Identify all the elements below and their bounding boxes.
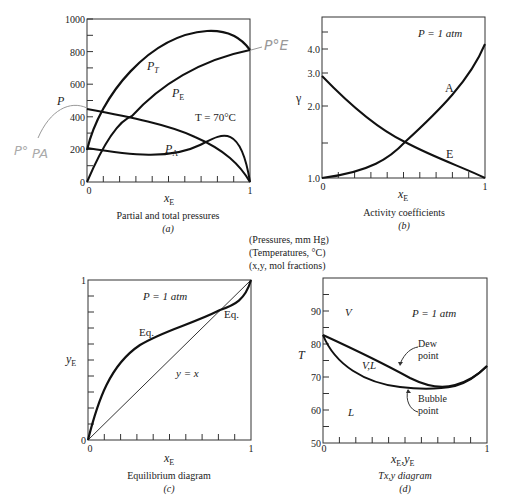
units-note-line: (Temperatures, °C) xyxy=(249,247,326,259)
ytick-label: 60 xyxy=(311,405,321,416)
xtick-label: 1 xyxy=(483,181,488,192)
label-bubble-point: point xyxy=(418,405,439,416)
curve-gamma-a xyxy=(322,44,485,178)
ytick-label: 80 xyxy=(311,339,321,350)
x-axis-label: xE xyxy=(163,191,174,207)
caption-sub: (b) xyxy=(398,220,410,232)
units-note: (Pressures, mm Hg) (Temperatures, °C) (x… xyxy=(249,234,329,272)
xtick-label: 0 xyxy=(321,181,326,192)
ytick-label: 0 xyxy=(81,435,86,446)
curve-bubble-point xyxy=(323,335,487,389)
ytick-label: 1000 xyxy=(65,14,85,25)
chart-d-ytick-labels: 50 60 70 80 90 xyxy=(311,306,321,449)
region-vl: V,L xyxy=(362,359,376,371)
label-eq-2: Eq. xyxy=(224,308,239,320)
chart-d-xticks xyxy=(339,437,470,443)
dew-arrow xyxy=(400,347,418,364)
chart-a-frame xyxy=(87,19,250,182)
label-dew-point: point xyxy=(418,350,439,361)
label-dew: Dew xyxy=(418,338,438,349)
xtick-label: 1 xyxy=(249,443,254,454)
region-v: V xyxy=(345,306,353,318)
chart-a-xticks xyxy=(103,176,233,182)
condition-label: P = 1 atm xyxy=(411,307,456,319)
ytick-label: 1 xyxy=(81,275,86,286)
curve-pt xyxy=(87,31,250,150)
label-pt: PT xyxy=(146,59,159,75)
bubble-arrowhead-icon xyxy=(406,389,411,393)
xtick-label: 0 xyxy=(322,443,327,454)
chart-a-ytick-labels: 0 200 400 600 800 1000 xyxy=(65,14,85,188)
chart-d-frame xyxy=(323,278,487,443)
diagonal-line xyxy=(88,280,251,440)
ytick-label: 2.0 xyxy=(308,101,321,112)
condition-label: P = 1 atm xyxy=(142,290,187,302)
caption: Partial and total pressures xyxy=(116,210,219,221)
chart-b-yticks xyxy=(322,32,328,143)
ytick-label: 800 xyxy=(70,47,85,58)
x-axis-label: xE xyxy=(163,451,174,467)
xtick-label: 0 xyxy=(88,443,93,454)
handwritten-pe: P°E xyxy=(264,37,288,53)
chart-c-xticks xyxy=(104,434,234,440)
chart-d-yticks xyxy=(323,295,329,427)
ytick-label: 1.0 xyxy=(308,173,321,184)
region-l: L xyxy=(347,406,354,418)
label-a: A xyxy=(445,81,454,95)
ytick-label: 400 xyxy=(70,112,85,123)
ytick-label: 600 xyxy=(70,79,85,90)
label-eq-1: Eq. xyxy=(139,326,154,338)
units-note-line: (Pressures, mm Hg) xyxy=(249,234,329,246)
xtick-label: 1 xyxy=(248,185,253,196)
handwritten-pa: PA xyxy=(32,146,48,161)
ytick-label: 50 xyxy=(311,438,321,449)
label-pa: PA xyxy=(164,142,178,158)
condition-label: T = 70°C xyxy=(195,111,236,123)
caption-sub: (a) xyxy=(162,223,174,235)
figure-canvas: 0 200 400 600 800 1000 0 1 PT PE PA T = … xyxy=(0,0,505,499)
curve-dew-point xyxy=(323,335,487,387)
chart-d: 50 60 70 80 90 0 1 V V,L L P = 1 atm Dew… xyxy=(298,278,490,495)
y-axis-label: P xyxy=(56,94,65,108)
handwritten-p0: P° xyxy=(14,143,28,158)
bubble-arrow xyxy=(407,390,418,412)
label-diagonal: y = x xyxy=(175,367,199,379)
chart-c-yticks xyxy=(88,296,94,424)
label-e: E xyxy=(446,147,453,161)
caption: Equilibrium diagram xyxy=(127,470,211,481)
condition-label: P = 1 atm xyxy=(417,27,462,39)
ytick-label: 90 xyxy=(311,306,321,317)
chart-c: 1 0 0 1 P = 1 atm Eq. Eq. y = x yE xE Eq… xyxy=(65,275,254,495)
chart-a: 0 200 400 600 800 1000 0 1 PT PE PA T = … xyxy=(0,0,288,235)
ytick-label: 200 xyxy=(70,144,85,155)
y-axis-label: yE xyxy=(65,352,76,368)
caption-sub: (c) xyxy=(163,483,175,495)
chart-b: 1.0 2.0 3.0 4.0 0 1 A E P = 1 atm γ xE A… xyxy=(295,17,488,232)
ytick-label: 0 xyxy=(80,177,85,188)
xtick-label: 1 xyxy=(485,443,490,454)
caption: Activity coefficients xyxy=(363,207,445,218)
ytick-label: 70 xyxy=(311,372,321,383)
caption-sub: (d) xyxy=(399,483,411,495)
label-bubble: Bubble xyxy=(418,393,447,404)
xtick-label: 0 xyxy=(87,185,92,196)
y-axis-label: γ xyxy=(295,91,302,105)
y-axis-label: T xyxy=(298,348,306,362)
units-note-line: (x,y, mol fractions) xyxy=(249,260,326,272)
chart-b-frame xyxy=(322,17,485,178)
chart-b-ytick-labels: 1.0 2.0 3.0 4.0 xyxy=(308,44,321,184)
x-axis-label: xE xyxy=(397,187,408,203)
x-axis-label: xE,yE xyxy=(390,452,415,468)
curve-gamma-e xyxy=(322,76,485,178)
label-pe: PE xyxy=(171,86,184,102)
caption: Tx,y diagram xyxy=(378,470,431,481)
ytick-label: 3.0 xyxy=(308,68,321,79)
dew-arrowhead-icon xyxy=(398,362,403,366)
ytick-label: 4.0 xyxy=(308,44,321,55)
chart-b-xticks xyxy=(338,172,468,178)
